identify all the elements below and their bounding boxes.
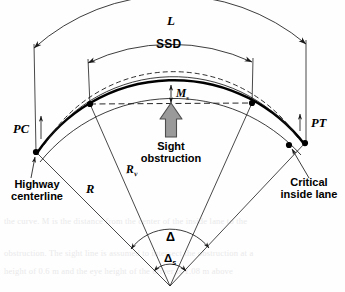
label-curve-length-L: L — [167, 14, 175, 29]
leader-highway-centerline — [31, 157, 35, 178]
callout-critical-inside-lane-line2: inside lane — [273, 188, 345, 200]
label-central-angle-delta: Δ — [166, 230, 175, 244]
callout-sight-obstruction: Sight obstruction — [131, 140, 211, 165]
callout-highway-centerline-line2: centerline — [1, 190, 73, 202]
label-middle-ordinate-base: M — [176, 87, 186, 99]
dot-pc — [33, 149, 39, 155]
label-radius-Rv-subscript: v — [134, 169, 138, 178]
label-radius-R: R — [86, 182, 94, 196]
label-sight-angle-delta-s: Δs — [164, 252, 176, 268]
callout-critical-inside-lane: Critical inside lane — [273, 176, 345, 201]
extension-line-ssd-left — [88, 59, 90, 106]
label-sight-distance-SSD: SSD — [156, 38, 182, 51]
extension-line-pc — [34, 44, 36, 152]
callout-highway-centerline: Highway centerline — [1, 178, 73, 203]
callout-highway-centerline-line1: Highway — [1, 178, 73, 190]
leader-critical-inside-lane — [292, 149, 309, 178]
callout-sight-obstruction-line2: obstruction — [131, 152, 211, 164]
label-radius-Rv-base: R — [126, 162, 134, 176]
obstruction-block-arrow — [160, 103, 182, 137]
label-middle-ordinate-subscript: s — [186, 94, 189, 102]
sight-obstruction-arrow — [160, 103, 182, 137]
radial-Rv-left — [90, 104, 170, 286]
label-point-of-tangent-PT: PT — [311, 116, 326, 130]
figure-root: the curve. M is the distance from the ce… — [0, 0, 345, 292]
dot-critical-inside-lane — [286, 142, 292, 148]
callout-sight-obstruction-line1: Sight — [131, 140, 211, 152]
label-middle-ordinate-Ms: Ms — [176, 87, 189, 103]
label-sight-angle-subscript: s — [172, 259, 176, 267]
label-radius-Rv: Rv — [126, 163, 138, 179]
dot-ssd-left — [87, 101, 93, 107]
label-point-of-curve-PC: PC — [13, 122, 29, 136]
dot-ssd-right — [249, 100, 255, 106]
radial-Rv-right — [170, 103, 252, 286]
dot-pt — [302, 140, 308, 146]
callout-critical-inside-lane-line1: Critical — [273, 176, 345, 188]
radial-R-left — [36, 152, 170, 286]
